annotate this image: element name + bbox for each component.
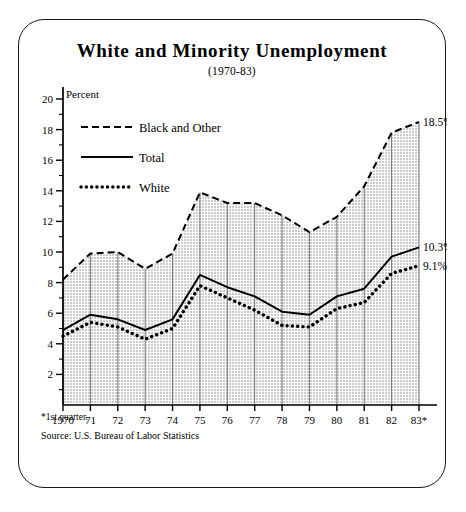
legend-label-white: White: [139, 181, 170, 195]
y-tick-label: 12: [42, 215, 53, 227]
figure-frame: White and Minority Unemployment (1970-83…: [18, 19, 446, 488]
footnote-text: *1st quarter.: [41, 412, 88, 422]
y-tick-label: 16: [42, 154, 54, 166]
x-tick-labels-group: 197071727374757677787980818283*: [52, 414, 427, 426]
y-tick-label: 18: [42, 124, 54, 136]
area-fill-group: [63, 122, 419, 405]
unemployment-line-chart: 2468101214161820 19707172737475767778798…: [19, 20, 447, 489]
y-tick-label: 10: [42, 246, 54, 258]
y-tick-label: 8: [48, 277, 54, 289]
end-label-white: 9.1%: [423, 260, 447, 272]
source-text: Source: U.S. Bureau of Labor Statistics: [41, 430, 199, 441]
chart-plot-area: 2468101214161820 19707172737475767778798…: [19, 20, 447, 489]
x-tick-label: 72: [112, 414, 123, 426]
x-tick-label: 74: [167, 414, 179, 426]
end-value-labels-group: 18.5%10.3%9.1%: [423, 116, 447, 272]
end-label-total: 10.3%: [423, 241, 447, 253]
legend-group: Black and OtherTotalWhite: [81, 121, 222, 195]
y-tick-label: 14: [42, 185, 54, 197]
x-tick-label: 82: [386, 414, 397, 426]
x-tick-label: 73: [140, 414, 152, 426]
y-axis-unit-label: Percent: [66, 88, 99, 100]
x-tick-label: 78: [277, 414, 289, 426]
x-tick-label: 77: [249, 414, 261, 426]
y-tick-label: 4: [48, 338, 54, 350]
x-tick-label: 81: [359, 414, 370, 426]
x-tick-group: [63, 405, 419, 411]
y-tick-label: 20: [42, 93, 54, 105]
y-tick-label: 2: [48, 368, 54, 380]
x-tick-label: 75: [194, 414, 206, 426]
legend-label-total: Total: [139, 151, 165, 165]
end-label-black_and_other: 18.5%: [423, 116, 447, 128]
legend-label-black_and_other: Black and Other: [139, 121, 222, 135]
y-tick-label: 6: [48, 307, 54, 319]
x-tick-label: 76: [222, 414, 234, 426]
y-tick-group: [56, 99, 63, 390]
x-tick-label: 79: [304, 414, 316, 426]
y-tick-labels-group: 2468101214161820: [42, 93, 54, 380]
x-tick-label: 83*: [411, 414, 428, 426]
x-tick-label: 80: [331, 414, 343, 426]
